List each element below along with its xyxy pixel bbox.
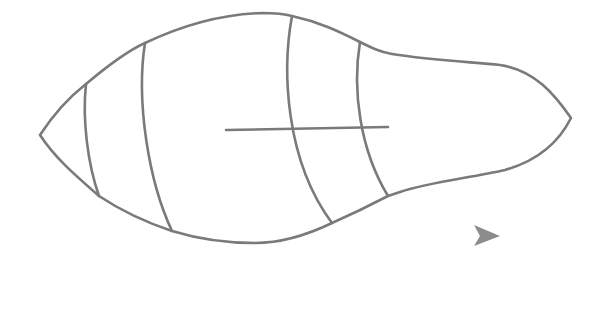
arrow-pointer-icon <box>474 225 500 246</box>
stripe-2 <box>142 43 172 231</box>
drawing-canvas <box>0 0 608 309</box>
stripe-3 <box>287 16 332 223</box>
stripe-1 <box>85 84 99 196</box>
stripe-4 <box>357 42 388 196</box>
horizontal-line <box>226 127 388 130</box>
outline-drawing <box>0 0 608 309</box>
